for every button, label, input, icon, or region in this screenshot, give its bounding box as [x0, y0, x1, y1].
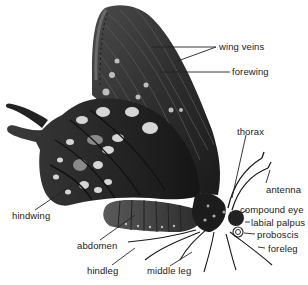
- butterfly-anatomy-diagram: wing veins forewing thorax antenna compo…: [0, 0, 308, 285]
- label-wing-veins: wing veins: [219, 42, 264, 52]
- label-antenna: antenna: [266, 185, 301, 195]
- label-foreleg: foreleg: [268, 244, 298, 254]
- label-labial-palpus: labial palpus: [251, 218, 305, 228]
- label-proboscis: proboscis: [257, 230, 299, 240]
- label-compound-eye: compound eye: [240, 205, 304, 215]
- antennae-shape: [228, 152, 271, 210]
- label-forewing: forewing: [232, 67, 269, 77]
- label-middle-leg: middle leg: [147, 266, 191, 276]
- label-thorax: thorax: [237, 127, 264, 137]
- label-abdomen: abdomen: [77, 241, 117, 251]
- label-hindleg: hindleg: [87, 266, 118, 276]
- label-hindwing: hindwing: [12, 211, 50, 221]
